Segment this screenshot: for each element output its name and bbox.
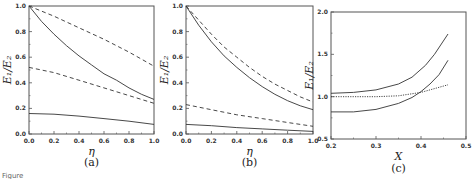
y-tick-label: 0.0: [15, 130, 26, 137]
x-tick-label: 0.6: [257, 137, 268, 144]
y-axis-title: E₁/E₂: [303, 61, 316, 91]
panel-label: (a): [84, 156, 99, 169]
y-tick-label: 0.4: [15, 79, 26, 86]
x-tick-label: 0.4: [416, 142, 427, 149]
x-tick-label: 0.2: [49, 137, 60, 144]
x-tick-label: 0.2: [326, 142, 337, 149]
series-solid-upper: [29, 6, 154, 99]
chart-panel-b: 0.00.20.40.60.81.00.00.20.40.60.81.0ηE₁/…: [158, 2, 318, 169]
series-dashed-lower: [186, 105, 313, 127]
plot-frame: [331, 12, 466, 139]
series-dashed-upper: [29, 6, 154, 66]
y-tick-label: 0.0: [172, 130, 183, 137]
chart-panel-c: 0.20.30.40.50.51.01.52.0XE₁/E₂(c): [303, 8, 471, 175]
y-axis-title: E₁/E₂: [1, 56, 14, 86]
y-tick-label: 0.5: [317, 135, 328, 142]
y-axis-title: E₁/E₂: [158, 56, 171, 86]
y-tick-label: 0.2: [172, 104, 183, 111]
y-tick-label: 1.0: [317, 93, 328, 100]
x-tick-label: 0.8: [124, 137, 135, 144]
y-tick-label: 0.2: [15, 104, 26, 111]
x-tick-label: 0.8: [282, 137, 293, 144]
panel-label: (b): [242, 156, 258, 169]
x-tick-label: 0.2: [206, 137, 217, 144]
series-solid-lower: [186, 124, 313, 131]
x-tick-label: 0.6: [99, 137, 110, 144]
y-tick-label: 1.5: [317, 50, 328, 57]
x-tick-label: 0.0: [181, 137, 192, 144]
figure-caption: Figure: [2, 172, 23, 179]
plot-frame: [29, 6, 154, 134]
x-tick-label: 0.4: [231, 137, 242, 144]
x-tick-label: 0.0: [24, 137, 35, 144]
y-tick-label: 0.8: [15, 28, 26, 35]
figure-canvas: 0.00.20.40.60.81.00.00.20.40.60.81.0ηE₁/…: [0, 0, 472, 179]
y-tick-label: 0.4: [172, 79, 183, 86]
plot-frame: [186, 6, 313, 134]
x-tick-label: 1.0: [149, 137, 160, 144]
y-tick-label: 1.0: [172, 2, 183, 9]
y-tick-label: 0.6: [15, 53, 26, 60]
x-tick-label: 0.4: [74, 137, 85, 144]
series-solid-upper: [331, 34, 448, 93]
series-dashed-lower: [29, 67, 154, 103]
series-solid-lower: [29, 114, 154, 125]
y-tick-label: 1.0: [15, 2, 26, 9]
panel-label: (c): [391, 162, 406, 175]
x-tick-label: 0.3: [371, 142, 382, 149]
y-tick-label: 0.6: [172, 53, 183, 60]
chart-panel-a: 0.00.20.40.60.81.00.00.20.40.60.81.0ηE₁/…: [1, 2, 159, 169]
x-tick-label: 0.5: [461, 142, 472, 149]
series-dashed-upper: [186, 6, 313, 102]
y-tick-label: 2.0: [317, 8, 328, 15]
y-tick-label: 0.8: [172, 28, 183, 35]
